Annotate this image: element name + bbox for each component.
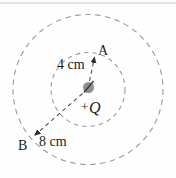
charge-sign-label: +	[81, 99, 88, 114]
radius-arrow-a	[90, 58, 95, 82]
radius-arrow-b	[35, 94, 83, 136]
equipotential-diagram: A B 4 cm 8 cm + Q	[0, 0, 176, 178]
charge-symbol-label: Q	[89, 99, 101, 116]
inner-radius-label: 4 cm	[57, 57, 85, 72]
physics-figure: A B 4 cm 8 cm + Q	[0, 0, 176, 178]
point-a-label: A	[98, 43, 109, 58]
point-b-label: B	[18, 138, 27, 153]
outer-radius-label: 8 cm	[39, 134, 67, 149]
